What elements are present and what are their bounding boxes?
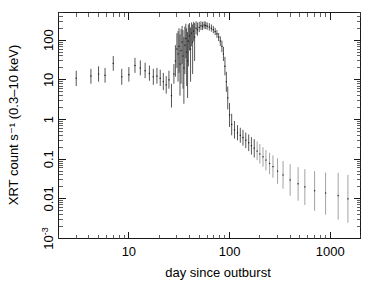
data-point	[240, 135, 241, 136]
data-point	[76, 78, 77, 79]
y-tick-label: 10	[41, 73, 56, 87]
data-point	[153, 76, 154, 77]
data-point	[269, 163, 270, 164]
data-point	[180, 50, 181, 51]
data-point	[149, 73, 150, 74]
data-point	[262, 156, 263, 157]
x-axis-minor-ticks	[59, 13, 361, 239]
data-point	[231, 124, 232, 125]
data-point	[234, 129, 235, 130]
data-point	[182, 41, 183, 42]
data-point	[254, 148, 255, 149]
data-point	[193, 30, 194, 31]
data-point	[338, 195, 339, 196]
data-point	[207, 26, 208, 27]
data-point	[215, 31, 216, 32]
data-point	[190, 48, 191, 49]
data-point	[163, 81, 164, 82]
data-point	[194, 36, 195, 37]
data-point	[173, 73, 174, 74]
data-point	[113, 63, 114, 64]
data-point	[221, 46, 222, 47]
data-point	[298, 183, 299, 184]
data-point	[140, 67, 141, 68]
data-point	[282, 174, 283, 175]
data-point	[216, 33, 217, 34]
x-axis-tick-labels: 101001000	[122, 244, 345, 259]
data-point	[251, 145, 252, 146]
data-point	[195, 28, 196, 29]
data-point	[128, 74, 129, 75]
data-point	[242, 137, 243, 138]
data-point	[185, 38, 186, 39]
plot-canvas: 101001000 1001010.10.0110-3 day since ou…	[0, 0, 376, 289]
data-point	[209, 26, 210, 27]
data-point	[197, 29, 198, 30]
data-point	[178, 46, 179, 47]
data-point	[218, 36, 219, 37]
data-point	[224, 66, 225, 67]
data-point	[168, 79, 169, 80]
axes-rectangle	[59, 13, 361, 239]
y-tick-label: 0.1	[41, 150, 56, 168]
data-point	[245, 140, 246, 141]
data-point	[200, 25, 201, 26]
y-tick-label: 100	[41, 29, 56, 51]
data-point	[272, 166, 273, 167]
data-point	[182, 55, 183, 56]
data-point	[166, 84, 167, 85]
y-axis-minor-ticks	[59, 13, 361, 227]
data-point	[314, 190, 315, 191]
y-axis-tick-labels: 1001010.10.0110-3	[40, 29, 56, 249]
data-series-layer	[76, 21, 349, 222]
data-point	[134, 65, 135, 66]
data-point	[156, 75, 157, 76]
x-axis-title: day since outburst	[165, 265, 271, 280]
data-point	[248, 142, 249, 143]
data-point	[202, 26, 203, 27]
data-point	[257, 150, 258, 151]
y-tick-label: 10-3	[40, 227, 56, 249]
data-point	[304, 186, 305, 187]
data-point	[176, 48, 177, 49]
data-point	[229, 114, 230, 115]
data-point	[177, 53, 178, 54]
data-point	[265, 159, 266, 160]
x-tick-label: 10	[122, 244, 136, 259]
data-point	[223, 53, 224, 54]
data-point	[188, 41, 189, 42]
data-point	[277, 171, 278, 172]
data-point	[259, 153, 260, 154]
y-tick-label: 1	[41, 116, 56, 123]
y-axis-major-ticks	[59, 40, 361, 238]
data-point	[90, 75, 91, 76]
y-tick-label: 0.01	[41, 186, 56, 211]
data-point	[290, 179, 291, 180]
data-point	[104, 75, 105, 76]
x-tick-label: 1000	[316, 244, 345, 259]
data-point	[192, 41, 193, 42]
data-point	[213, 29, 214, 30]
data-point	[226, 81, 227, 82]
data-point	[171, 95, 172, 96]
data-point	[98, 73, 99, 74]
data-point	[211, 28, 212, 29]
data-point	[121, 76, 122, 77]
data-point	[183, 67, 184, 68]
data-point	[220, 41, 221, 42]
data-point	[145, 70, 146, 71]
data-point	[199, 27, 200, 28]
data-point	[189, 35, 190, 36]
data-point	[179, 63, 180, 64]
data-point	[186, 52, 187, 53]
data-point	[227, 97, 228, 98]
data-point	[347, 198, 348, 199]
plot-frame	[59, 13, 361, 239]
data-point	[160, 78, 161, 79]
data-point	[175, 60, 176, 61]
x-tick-label: 100	[219, 244, 241, 259]
data-point	[237, 132, 238, 133]
data-point	[191, 33, 192, 34]
data-point	[205, 25, 206, 26]
light-curve-figure: 101001000 1001010.10.0110-3 day since ou…	[0, 0, 376, 289]
